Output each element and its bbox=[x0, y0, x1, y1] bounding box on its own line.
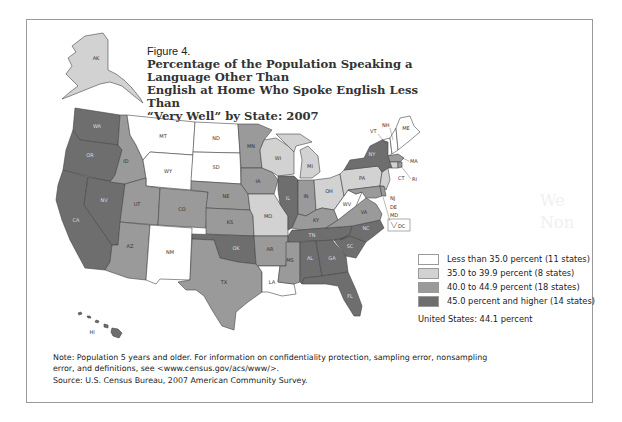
svg-text:CA: CA bbox=[73, 217, 80, 223]
state-nm: NM bbox=[146, 225, 192, 284]
svg-text:MO: MO bbox=[264, 213, 272, 219]
svg-text:NV: NV bbox=[100, 197, 108, 203]
svg-text:KY: KY bbox=[313, 217, 320, 223]
svg-text:DE: DE bbox=[390, 204, 397, 210]
legend-item-40-44: 40.0 to 44.9 percent (18 states) bbox=[418, 280, 595, 294]
svg-text:ND: ND bbox=[212, 135, 220, 141]
legend-item-35-39: 35.0 to 39.9 percent (8 states) bbox=[418, 266, 595, 280]
figure-title-line-3: “Very Well” by State: 2007 bbox=[147, 110, 447, 123]
state-ar: AR bbox=[254, 236, 288, 266]
legend: Less than 35.0 percent (11 states) 35.0 … bbox=[418, 252, 595, 308]
svg-text:WA: WA bbox=[93, 123, 102, 129]
svg-text:CT: CT bbox=[398, 175, 405, 181]
legend-swatch-medium bbox=[418, 282, 439, 293]
svg-text:SC: SC bbox=[347, 243, 354, 249]
state-sd: SD bbox=[191, 152, 241, 184]
legend-swatch-white bbox=[418, 254, 439, 265]
svg-text:MS: MS bbox=[286, 257, 294, 263]
state-ma bbox=[388, 154, 404, 162]
state-ks: KS bbox=[206, 208, 254, 236]
svg-text:DC: DC bbox=[398, 223, 406, 229]
svg-text:MD: MD bbox=[390, 212, 398, 218]
us-total: United States: 44.1 percent bbox=[418, 314, 533, 324]
state-ri bbox=[398, 162, 402, 168]
svg-text:AZ: AZ bbox=[127, 243, 134, 249]
state-ny: NY bbox=[344, 140, 392, 172]
state-wy: WY bbox=[143, 152, 193, 190]
svg-text:MT: MT bbox=[159, 133, 167, 139]
svg-text:UT: UT bbox=[134, 201, 142, 207]
state-nd: ND bbox=[193, 122, 240, 153]
figure-title-line-2: English at Home Who Spoke English Less T… bbox=[147, 84, 447, 110]
svg-text:AK: AK bbox=[93, 55, 100, 61]
svg-text:OR: OR bbox=[86, 152, 94, 158]
svg-text:NC: NC bbox=[362, 225, 370, 231]
svg-text:HI: HI bbox=[89, 329, 94, 335]
svg-text:AL: AL bbox=[307, 255, 313, 261]
svg-text:IL: IL bbox=[286, 195, 290, 201]
svg-text:CO: CO bbox=[178, 206, 185, 212]
figure-title: Percentage of the Population Speaking a … bbox=[147, 58, 447, 123]
ghost-line-2: Non bbox=[540, 212, 574, 234]
svg-text:ID: ID bbox=[123, 158, 128, 164]
legend-label: 35.0 to 39.9 percent (8 states) bbox=[447, 268, 574, 278]
note-text: Note: Population 5 years and older. For … bbox=[53, 352, 493, 374]
legend-label: 40.0 to 44.9 percent (18 states) bbox=[447, 282, 580, 292]
svg-text:RI: RI bbox=[412, 176, 417, 182]
legend-item-lt35: Less than 35.0 percent (11 states) bbox=[418, 252, 595, 266]
state-in: IN bbox=[298, 180, 316, 216]
figure-title-block: Figure 4. Percentage of the Population S… bbox=[147, 45, 447, 123]
svg-text:WV: WV bbox=[343, 201, 352, 207]
legend-swatch-light bbox=[418, 268, 439, 279]
svg-text:VA: VA bbox=[361, 209, 368, 215]
source-text: Source: U.S. Census Bureau, 2007 America… bbox=[53, 375, 493, 386]
svg-text:MI: MI bbox=[307, 163, 313, 169]
legend-item-45plus: 45.0 percent and higher (14 states) bbox=[418, 294, 595, 308]
svg-text:NJ: NJ bbox=[390, 195, 395, 201]
svg-text:LA: LA bbox=[269, 279, 276, 285]
svg-text:MA: MA bbox=[410, 158, 418, 164]
svg-text:AR: AR bbox=[267, 246, 274, 252]
svg-text:WI: WI bbox=[275, 155, 281, 161]
svg-text:VT: VT bbox=[370, 128, 377, 134]
svg-text:GA: GA bbox=[328, 255, 336, 261]
svg-text:NM: NM bbox=[166, 249, 174, 255]
svg-text:IN: IN bbox=[303, 193, 308, 199]
bleed-through-text: We Non bbox=[540, 190, 574, 234]
svg-text:TN: TN bbox=[308, 232, 316, 238]
svg-text:OK: OK bbox=[232, 245, 240, 251]
svg-text:WY: WY bbox=[164, 168, 173, 174]
legend-label: 45.0 percent and higher (14 states) bbox=[447, 296, 595, 306]
legend-label: Less than 35.0 percent (11 states) bbox=[447, 254, 590, 264]
state-co: CO bbox=[158, 188, 208, 228]
ghost-line-1: We bbox=[540, 190, 574, 212]
svg-text:FL: FL bbox=[347, 293, 353, 299]
legend-swatch-dark bbox=[418, 296, 439, 307]
svg-text:PA: PA bbox=[359, 175, 366, 181]
figure-title-line-1: Percentage of the Population Speaking a … bbox=[147, 58, 447, 84]
svg-text:TX: TX bbox=[220, 279, 228, 285]
figure-label: Figure 4. bbox=[147, 45, 447, 57]
state-fl: FL bbox=[302, 272, 362, 316]
svg-text:SD: SD bbox=[212, 164, 219, 170]
svg-text:NY: NY bbox=[369, 151, 377, 157]
svg-text:IA: IA bbox=[256, 178, 261, 184]
svg-text:KS: KS bbox=[227, 219, 233, 225]
state-ak: AK bbox=[62, 33, 143, 103]
state-wa: WA bbox=[73, 108, 120, 145]
svg-text:MN: MN bbox=[247, 143, 255, 149]
svg-text:ME: ME bbox=[402, 125, 409, 131]
svg-text:OH: OH bbox=[325, 188, 333, 194]
state-hi: HI bbox=[78, 312, 122, 338]
figure-notes: Note: Population 5 years and older. For … bbox=[53, 352, 493, 387]
svg-text:NE: NE bbox=[223, 193, 230, 199]
